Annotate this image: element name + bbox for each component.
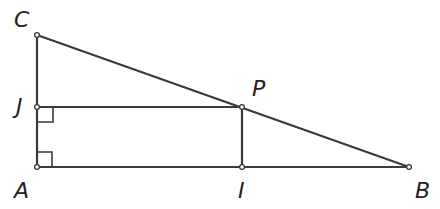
label-b: B xyxy=(415,178,430,203)
right-angle-marker-j xyxy=(37,107,53,122)
label-a: A xyxy=(12,178,29,203)
point-b xyxy=(407,165,412,170)
point-j xyxy=(35,105,40,110)
point-a xyxy=(35,165,40,170)
point-p xyxy=(240,105,245,110)
label-j: J xyxy=(12,94,23,119)
triangle-diagram: C J A P I B xyxy=(0,0,440,209)
label-p: P xyxy=(252,76,266,101)
point-i xyxy=(240,165,245,170)
point-c xyxy=(35,33,40,38)
label-c: C xyxy=(14,7,30,32)
right-angle-marker-a xyxy=(37,152,52,167)
segment-cb xyxy=(37,35,409,167)
label-i: I xyxy=(238,178,245,203)
